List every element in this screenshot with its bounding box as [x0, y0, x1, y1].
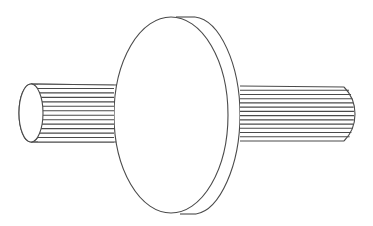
shaft-disk-drawing: [0, 0, 373, 226]
disk-front-face: [114, 17, 228, 213]
diagram-canvas: Line drawing of a splined shaft passing …: [0, 0, 373, 226]
disk: [114, 17, 240, 214]
left-shaft-front: [19, 84, 114, 142]
right-shaft: [240, 86, 355, 141]
